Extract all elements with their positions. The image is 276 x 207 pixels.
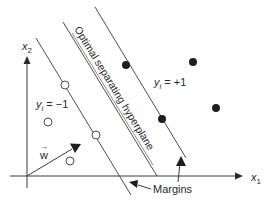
margins-label: Margins (153, 183, 193, 195)
negative-point (92, 131, 100, 139)
positive-point (212, 104, 220, 112)
hyperplane-label: Optimal separating hyperplane (72, 24, 157, 152)
positive-class-label: yi = +1 (153, 76, 186, 91)
weight-vector-accent: → (40, 142, 48, 151)
margin-arrow-right-icon (176, 156, 186, 166)
negative-point (61, 81, 69, 89)
weight-vector-arrow-icon (70, 144, 81, 154)
negative-margin-line (36, 38, 131, 195)
negative-point (66, 157, 74, 165)
x-axis-subscript: 1 (257, 177, 262, 186)
negative-point (44, 118, 52, 126)
negative-points (44, 81, 100, 165)
svg-text:x1: x1 (250, 171, 262, 186)
margin-arrow-left-icon (129, 180, 138, 188)
negative-class-label: yi = −1 (35, 98, 68, 113)
svm-diagram: x1 x2 Optimal separating hyperplane yi =… (0, 0, 276, 207)
y-axis-subscript: 2 (28, 46, 33, 55)
positive-point (189, 58, 197, 66)
positive-point (122, 61, 130, 69)
svg-text:x2: x2 (21, 40, 33, 55)
x-axis-arrow-icon (235, 173, 243, 180)
positive-point (158, 115, 166, 123)
y-axis-arrow-icon (24, 56, 31, 64)
hyperplane-label-underline (72, 33, 153, 165)
hyperplane-line (63, 22, 157, 176)
y-axis: x2 (21, 40, 33, 188)
